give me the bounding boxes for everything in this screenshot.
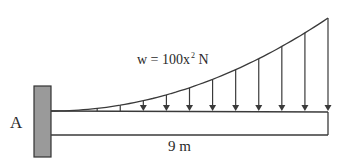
arrow-head-icon — [278, 105, 285, 111]
arrow-head-icon — [209, 105, 216, 111]
arrow-head-icon — [140, 105, 147, 111]
arrow-head-icon — [255, 105, 262, 111]
arrow-head-icon — [163, 105, 170, 111]
arrow-head-icon — [186, 105, 193, 111]
load-equation-base: w = 100x — [137, 52, 190, 67]
load-arrow — [232, 70, 239, 111]
load-arrow — [186, 88, 193, 111]
beam — [51, 111, 328, 135]
arrow-head-icon — [232, 105, 239, 111]
load-arrow — [163, 95, 170, 111]
load-equation-unit: N — [195, 52, 209, 67]
load-arrow — [255, 59, 262, 111]
load-arrow — [278, 46, 285, 111]
support-label-a: A — [10, 113, 22, 133]
arrow-head-icon — [325, 105, 332, 111]
arrow-head-icon — [301, 105, 308, 111]
fixed-wall-support — [34, 86, 51, 157]
load-arrow — [140, 101, 147, 111]
load-arrow — [301, 33, 308, 111]
load-arrow — [325, 18, 332, 111]
load-arrow — [209, 79, 216, 111]
beam-length-label: 9 m — [168, 138, 191, 155]
load-equation-label: w = 100x2 N — [137, 51, 209, 68]
